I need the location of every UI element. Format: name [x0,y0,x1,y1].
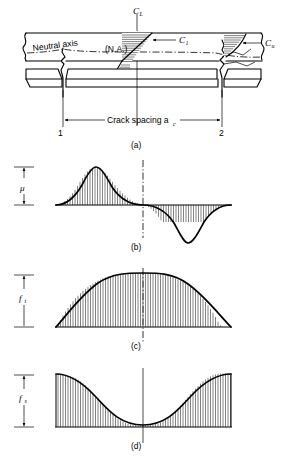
panel-c-hatch [58,273,221,327]
label-crack-number-2: 2 [219,128,224,138]
centerline-symbol-subscript: L [139,11,144,17]
label-crack-spacing-subscript: c [173,121,176,127]
figure-container: C L C 1 C u Neutral axis (N.A.) Crack sp… [0,0,287,463]
label-compression-ultimate-subscript: u [272,43,275,49]
panel-label-a: (a) [131,140,141,150]
panel-d-hatch [58,374,231,428]
panel-d-steel-stress: f s (d) [14,368,232,451]
label-compression-inner-subscript: 1 [186,40,189,46]
panel-c-axis-label-subscript: t [24,298,26,304]
label-neutral-axis-abbrev: (N.A.) [105,44,128,54]
panel-d-axis-label: f [19,393,23,403]
panel-c-curve [56,273,231,327]
panel-b-hatch-positive [60,167,140,205]
panel-c-axis-label: f [19,293,23,303]
engineering-figure: C L C 1 C u Neutral axis (N.A.) Crack sp… [0,0,287,463]
panel-d-curve [56,374,231,425]
bar-segment-left-outer [26,69,62,79]
panel-label-c: (c) [131,341,141,351]
panel-label-b: (b) [131,242,141,252]
label-crack-number-1: 1 [58,128,63,138]
beam-left-break-edge [23,33,26,61]
soffit-left [26,79,62,87]
panel-a-beam-diagram: C L C 1 C u Neutral axis (N.A.) Crack sp… [23,6,275,150]
crack-2-branch-lower [224,62,255,66]
panel-b-bond-stress: μ (b) [14,160,232,252]
panel-c-concrete-tensile-stress: f t (c) [14,268,232,351]
bar-segment-right-outer [224,69,261,79]
label-crack-spacing: Crack spacing a [107,115,169,125]
panel-label-d: (d) [131,441,141,451]
soffit-right [224,79,261,87]
panel-b-axis-label: μ [19,183,25,193]
soffit-middle [66,79,218,87]
panel-d-axis-label-subscript: s [24,398,27,404]
beam-right-break-edge [261,33,264,60]
bar-segment-middle [66,69,217,79]
